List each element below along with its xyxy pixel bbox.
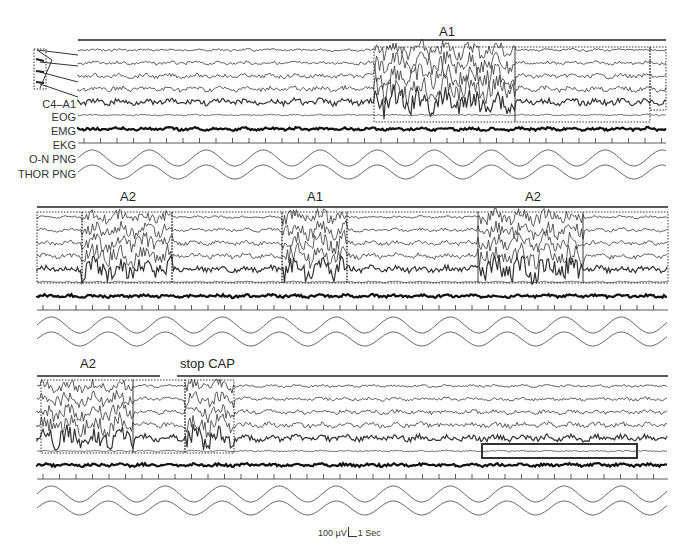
- cap-boxes: [37, 47, 668, 458]
- channel-label-c4-a1: C4–A1: [20, 98, 76, 110]
- annotation-a1-panel1: A1: [439, 25, 455, 39]
- cap-phase-box: [515, 47, 650, 122]
- annotation-stop-cap: stop CAP: [180, 357, 235, 371]
- cap-phase-box: [172, 212, 282, 283]
- annotation-a2-panel2-right: A2: [525, 190, 541, 204]
- cap-phase-box: [583, 212, 668, 283]
- scale-bar: 100 µV1 Sec: [318, 527, 381, 538]
- polysomnography-figure: [0, 0, 690, 549]
- scale-time: 1 Sec: [358, 528, 381, 538]
- channel-label-eog: EOG: [20, 111, 76, 123]
- channel-label-emg: EMG: [20, 125, 76, 137]
- cap-phase-box: [133, 380, 185, 453]
- scale-bar-icon: [348, 527, 357, 537]
- annotation-a1-panel2: A1: [307, 190, 323, 204]
- annotation-a2-panel3: A2: [80, 357, 96, 371]
- cap-phase-box: [37, 212, 82, 283]
- scale-amplitude: 100 µV: [318, 528, 347, 538]
- annotation-a2-panel2-left: A2: [120, 190, 136, 204]
- channel-label-on-png: O-N PNG: [10, 153, 76, 165]
- cap-phase-box: [347, 212, 478, 283]
- channel-label-thor-png: THOR PNG: [4, 168, 76, 180]
- channel-label-ekg: EKG: [20, 139, 76, 151]
- montage-diagram-icon: [34, 49, 78, 97]
